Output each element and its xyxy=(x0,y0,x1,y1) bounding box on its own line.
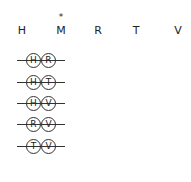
header-letter-v: V xyxy=(171,26,184,36)
pair-item: H T xyxy=(17,75,65,90)
circle-node: H xyxy=(26,75,41,90)
pair-item: T V xyxy=(17,139,65,154)
circle-node: R xyxy=(41,53,56,68)
circle-node: R xyxy=(26,117,41,132)
header-letter-t: T xyxy=(129,26,142,36)
circle-node: H xyxy=(26,53,41,68)
circle-node: T xyxy=(41,75,56,90)
header-letter-m: M xyxy=(54,26,67,36)
header-letter-r: R xyxy=(91,26,104,36)
asterisk-marker: * xyxy=(56,13,66,22)
circle-node: V xyxy=(41,139,56,154)
circle-node: V xyxy=(41,117,56,132)
pair-item: H R xyxy=(17,53,65,68)
circle-node: V xyxy=(41,96,56,111)
header-letter-h: H xyxy=(15,26,28,36)
pair-item: R V xyxy=(17,117,65,132)
circle-node: H xyxy=(26,96,41,111)
circle-node: T xyxy=(26,139,41,154)
pair-item: H V xyxy=(17,96,65,111)
